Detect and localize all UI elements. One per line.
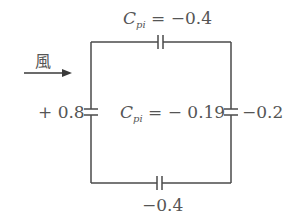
wind-label: 風 xyxy=(35,52,51,71)
bottom-capacitor-icon xyxy=(157,176,162,190)
right-capacitor-icon xyxy=(224,109,238,115)
pressure-diagram: 風 Cpi = −0.4 Cpi = − 0.19 + 0.8 −0.2 −0.… xyxy=(0,0,301,224)
windward-coefficient-label: + 0.8 xyxy=(38,102,85,122)
top-coefficient-label: Cpi = −0.4 xyxy=(123,8,212,30)
bottom-coefficient-label: −0.4 xyxy=(142,195,183,215)
top-capacitor-icon xyxy=(158,35,163,49)
internal-coefficient-label: Cpi = − 0.19 xyxy=(120,102,225,124)
left-capacitor-icon xyxy=(84,109,98,115)
leeward-coefficient-label: −0.2 xyxy=(242,102,283,122)
